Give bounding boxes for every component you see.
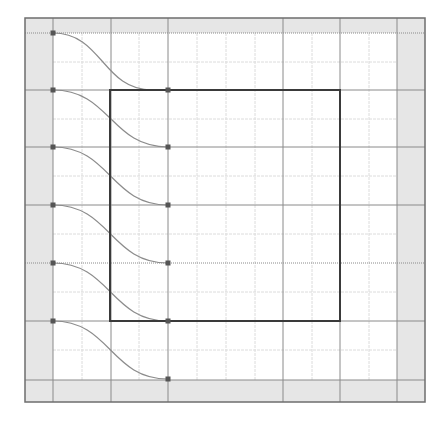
connector-node bbox=[166, 203, 171, 208]
diagram-canvas bbox=[0, 0, 444, 428]
connector-node bbox=[166, 145, 171, 150]
margin-bands bbox=[25, 18, 425, 402]
minor-grid bbox=[53, 33, 397, 380]
connector-node bbox=[166, 377, 171, 382]
outer-frame bbox=[25, 18, 425, 402]
left-band bbox=[25, 18, 53, 402]
connector-node bbox=[51, 88, 56, 93]
bottom-band bbox=[25, 380, 425, 402]
major-grid bbox=[25, 18, 425, 402]
grid-diagram bbox=[0, 0, 444, 428]
connector-node bbox=[51, 203, 56, 208]
connector-node bbox=[51, 145, 56, 150]
connector-node bbox=[51, 319, 56, 324]
connector-node bbox=[51, 261, 56, 266]
top-band bbox=[25, 18, 425, 33]
right-band bbox=[397, 18, 425, 402]
connector-node bbox=[166, 261, 171, 266]
connector-node bbox=[166, 88, 171, 93]
connector-node bbox=[51, 31, 56, 36]
connector-node bbox=[166, 319, 171, 324]
